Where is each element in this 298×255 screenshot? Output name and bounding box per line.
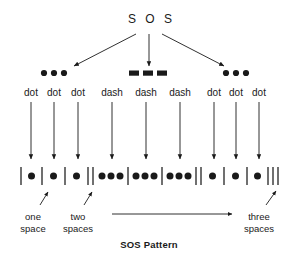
annotation-one-space: one space [20, 211, 45, 235]
middle-dash-cluster-glyphs [129, 71, 167, 76]
group-label-dot-2: dot [47, 88, 61, 98]
space-annotation-pointers [40, 191, 276, 205]
annotation-two-spaces-line1: two [71, 211, 86, 222]
annotation-three-spaces-line1: three [248, 211, 270, 222]
group-label-dash-1: dash [101, 88, 123, 98]
group-label-dot-6: dot [252, 88, 266, 98]
annotation-one-space-line1: one [25, 211, 41, 222]
annotation-one-space-line2: space [20, 223, 45, 234]
annotation-two-spaces: two spaces [63, 211, 93, 235]
group-label-dot-1: dot [24, 88, 38, 98]
group-label-dash-3: dash [169, 88, 191, 98]
group-label-dot-5: dot [229, 88, 243, 98]
annotation-three-spaces: three spaces [244, 211, 274, 235]
sos-fanout-arrows [74, 34, 224, 66]
sos-pattern-diagram: S O S dot dot dot dash dash dash dot dot… [0, 0, 298, 255]
figure-caption: SOS Pattern [120, 240, 178, 250]
group-label-dot-3: dot [71, 88, 85, 98]
right-dot-cluster-glyphs [223, 70, 249, 76]
annotation-three-spaces-line2: spaces [244, 223, 274, 234]
page-title: S O S [128, 13, 175, 25]
left-dot-cluster-glyphs [41, 70, 67, 76]
annotation-two-spaces-line2: spaces [63, 223, 93, 234]
pattern-separators [21, 167, 278, 185]
label-to-pattern-arrows [31, 102, 259, 159]
pattern-cell-dots [28, 173, 261, 180]
group-label-dot-4: dot [207, 88, 221, 98]
group-label-dash-2: dash [135, 88, 157, 98]
